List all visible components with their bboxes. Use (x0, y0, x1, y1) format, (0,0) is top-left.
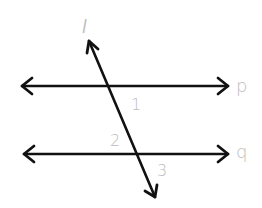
angle-label-1: 1 (131, 95, 141, 114)
line-q (24, 146, 228, 162)
label-l: l (82, 17, 87, 37)
line-l-transversal (87, 41, 157, 197)
line-p (22, 78, 228, 94)
angle-label-2: 2 (110, 131, 120, 150)
label-q: q (236, 141, 247, 162)
angle-label-3: 3 (157, 161, 167, 180)
label-p: p (236, 75, 247, 96)
parallel-lines-diagram: l p q 1 2 3 (0, 0, 262, 208)
